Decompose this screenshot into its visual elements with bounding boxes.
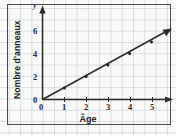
y-tick-label: 4 — [33, 50, 37, 59]
y-axis — [39, 6, 45, 100]
x-axis-title: Âge — [0, 114, 176, 124]
data-point-markers — [63, 41, 153, 90]
y-axis-variable-label: y — [33, 1, 37, 10]
x-tick-label: 5 — [150, 103, 154, 112]
y-tick-label: 6 — [33, 27, 37, 36]
chart-figure: y 6 4 2 0 0 1 2 3 4 5 Nombre d'anneaux Â… — [0, 0, 176, 135]
x-tick-label: 4 — [128, 103, 132, 112]
x-tick-label: 2 — [84, 103, 88, 112]
y-axis-title: Nombre d'anneaux — [11, 16, 23, 104]
y-tick-label: 2 — [33, 73, 37, 82]
x-tick-label: 1 — [62, 103, 66, 112]
y-tick-label: 0 — [33, 96, 37, 105]
x-tick-label: 3 — [106, 103, 110, 112]
x-tick-label: 0 — [39, 103, 43, 112]
